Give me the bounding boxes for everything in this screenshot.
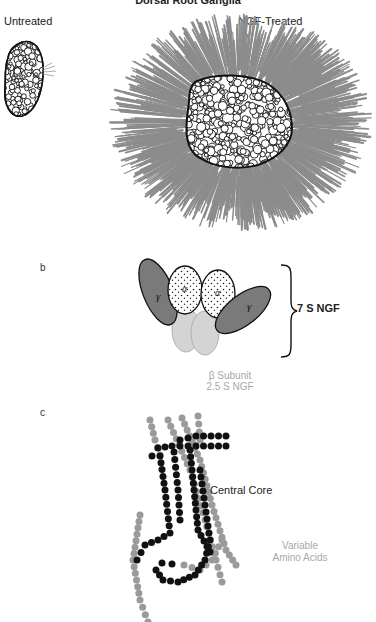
- variable-amino-acids-label: Variable Amino Acids: [250, 540, 350, 564]
- gamma-label-right: γ: [247, 300, 252, 312]
- gamma-label-left: γ: [156, 290, 161, 302]
- short-neurites: [42, 63, 56, 76]
- 7s-ngf-label: 7 S NGF: [297, 302, 340, 314]
- central-core-label: Central Core: [210, 484, 272, 496]
- beta-subunit-label: β Subunit 2.5 S NGF: [170, 370, 290, 392]
- ngf-peptide-chain: [130, 413, 240, 622]
- alpha-label-right: α: [215, 287, 221, 298]
- beta-subunit-line1: β Subunit: [170, 370, 290, 381]
- variable-line1: Variable: [250, 540, 350, 552]
- beta-subunit-line2: 2.5 S NGF: [170, 381, 290, 392]
- alpha-label-left: α: [182, 283, 188, 294]
- variable-line2: Amino Acids: [250, 552, 350, 564]
- brace: [281, 265, 297, 357]
- untreated-ganglion: [0, 37, 56, 122]
- ngf-complex: γ α α γ: [131, 254, 297, 357]
- panel-c-letter: c: [40, 407, 45, 418]
- panel-b-letter: b: [40, 262, 46, 273]
